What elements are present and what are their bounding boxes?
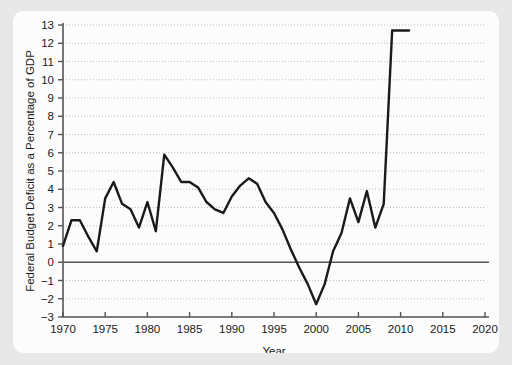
- y-tick-label: 13: [41, 19, 54, 31]
- x-tick-label: 2010: [388, 323, 414, 335]
- y-axis-title: Federal Budget Deficit as a Percentage o…: [24, 50, 36, 292]
- x-tick-label: 2020: [472, 323, 498, 335]
- chart-card: −3−2−1012345678910111213 197019751980198…: [13, 11, 499, 353]
- x-tick-label: 1990: [219, 323, 245, 335]
- y-tick-label: 2: [48, 220, 54, 232]
- x-tick-label: 2005: [346, 323, 372, 335]
- x-tick-label: 1995: [261, 323, 287, 335]
- x-tick-label: 1975: [92, 323, 118, 335]
- y-tick-label: 5: [48, 165, 54, 177]
- y-tick-label: 1: [48, 238, 54, 250]
- y-tick-label: −3: [41, 311, 54, 323]
- y-tick-label: 3: [48, 202, 54, 214]
- x-axis: 1970197519801985199019952000200520102015…: [50, 312, 498, 335]
- y-tick-label: 10: [41, 74, 54, 86]
- x-axis-title: Year: [262, 345, 285, 353]
- y-axis: −3−2−1012345678910111213: [41, 19, 63, 323]
- y-tick-label: 9: [48, 92, 54, 104]
- budget-deficit-line-chart: −3−2−1012345678910111213 197019751980198…: [13, 11, 499, 353]
- y-tick-label: 6: [48, 147, 54, 159]
- y-tick-label: 0: [48, 256, 54, 268]
- deficit-series-line: [63, 30, 409, 304]
- x-tick-label: 1985: [177, 323, 203, 335]
- y-tick-label: 12: [41, 37, 54, 49]
- y-tick-label: 4: [48, 183, 55, 195]
- x-tick-label: 1980: [135, 323, 161, 335]
- x-tick-label: 1970: [50, 323, 76, 335]
- y-tick-label: −1: [41, 275, 54, 287]
- x-tick-label: 2000: [303, 323, 329, 335]
- y-tick-label: 7: [48, 129, 54, 141]
- y-tick-label: 11: [42, 56, 54, 68]
- x-tick-label: 2015: [430, 323, 456, 335]
- y-tick-label: −2: [41, 293, 54, 305]
- gridlines-group: [63, 25, 485, 317]
- y-tick-label: 8: [48, 110, 54, 122]
